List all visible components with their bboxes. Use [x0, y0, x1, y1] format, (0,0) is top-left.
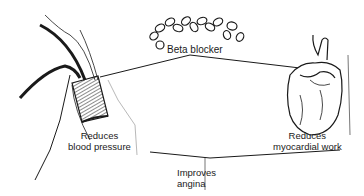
beta-blocker-diagram: Beta blocker Reduces blood pressure Redu…: [0, 0, 364, 196]
heart-icon: [288, 35, 351, 135]
effect-line-1: Reduces: [68, 130, 131, 141]
outcome-line-1: Improves: [177, 167, 216, 178]
effect-label-myocardial-work: Reduces myocardial work: [273, 130, 342, 152]
outcome-line-2: angina: [177, 178, 216, 189]
effect-line-2: myocardial work: [273, 141, 342, 152]
effect-line-1: Reduces: [273, 130, 342, 141]
blood-vessel-icon: [20, 15, 137, 180]
effect-label-blood-pressure: Reduces blood pressure: [68, 130, 131, 152]
effect-line-2: blood pressure: [68, 141, 131, 152]
outcome-label: Improves angina: [177, 167, 216, 189]
center-label-beta-blocker: Beta blocker: [167, 44, 223, 55]
